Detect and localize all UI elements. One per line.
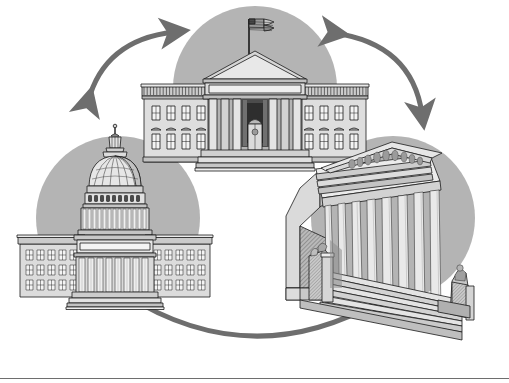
capitol-left-wing [17, 235, 85, 297]
white-house-left-wing [141, 84, 211, 162]
capitol-right-wing [145, 235, 213, 297]
three-branches-figure: Three Branches of the United States Gove… [0, 0, 509, 383]
figure-canvas [0, 0, 509, 383]
white-house-right-wing [299, 84, 369, 162]
capitol-portico [66, 235, 164, 310]
